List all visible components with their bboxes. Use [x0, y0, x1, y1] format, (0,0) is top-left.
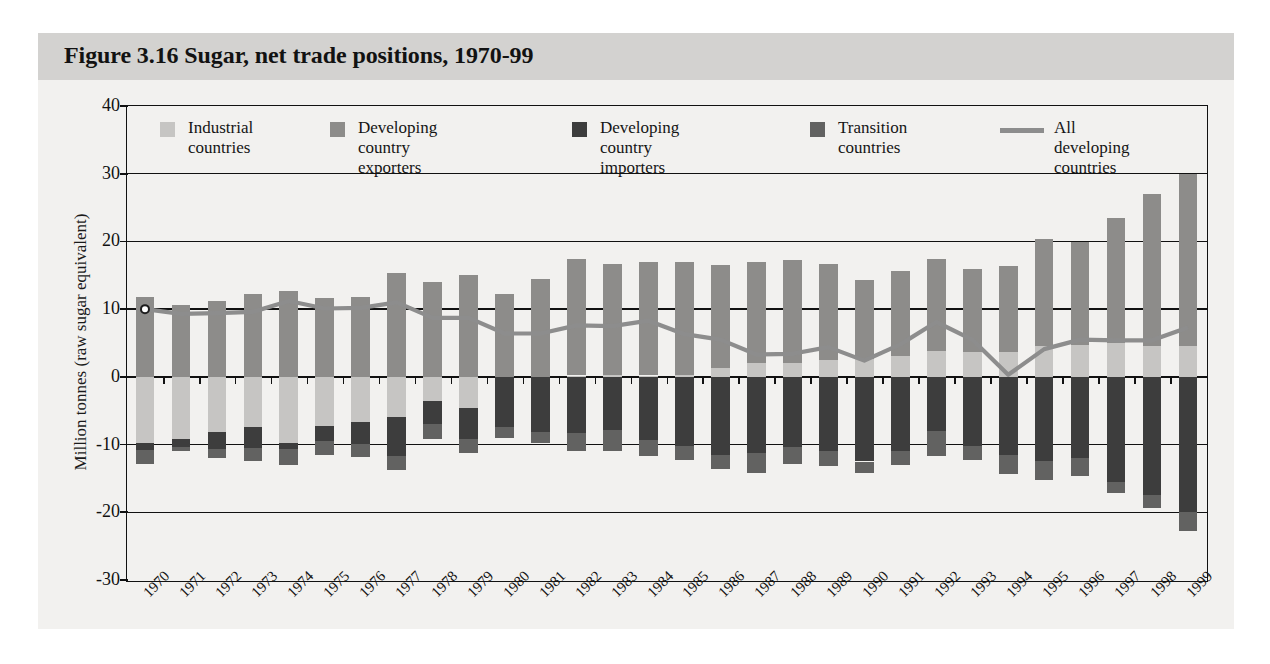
legend-color-swatch — [330, 122, 345, 137]
legend-color-swatch — [810, 122, 825, 137]
legend-label: All developing countries — [1054, 118, 1130, 178]
x-tickmark — [595, 377, 597, 384]
x-tickmark — [990, 377, 992, 384]
x-tickmark — [307, 377, 309, 384]
x-tickmark — [918, 377, 920, 384]
x-tickmark — [163, 377, 165, 384]
x-tickmark — [559, 377, 561, 384]
x-tickmark — [523, 377, 525, 384]
x-tickmark — [846, 377, 848, 384]
x-tickmark — [810, 377, 812, 384]
figure-title-band: Figure 3.16 Sugar, net trade positions, … — [38, 33, 1234, 80]
x-tickmark — [343, 377, 345, 384]
y-tick-label: 10 — [74, 298, 120, 319]
x-tickmark — [487, 377, 489, 384]
legend-line-swatch — [1000, 128, 1044, 133]
x-tickmark — [1062, 377, 1064, 384]
x-tickmark — [199, 377, 201, 384]
legend-label: Developing country exporters — [358, 118, 437, 178]
x-tickmark — [954, 377, 956, 384]
x-tickmark — [379, 377, 381, 384]
x-tickmark — [415, 377, 417, 384]
x-tickmark — [271, 377, 273, 384]
legend-color-swatch — [572, 122, 587, 137]
x-axis-tick-labels: 1970197119721973197419751976197719781979… — [126, 585, 1208, 655]
legend-label: Transition countries — [838, 118, 907, 158]
legend-label: Industrial countries — [188, 118, 253, 158]
x-tickmark — [1098, 377, 1100, 384]
y-tick-label: 20 — [74, 230, 120, 251]
y-tick-label: -10 — [74, 433, 120, 454]
x-tickmark — [1134, 377, 1136, 384]
chart-legend: Industrial countriesDeveloping country e… — [160, 118, 1160, 168]
x-tickmark — [738, 377, 740, 384]
x-tickmark — [667, 377, 669, 384]
y-tick-label: 40 — [74, 95, 120, 116]
x-tickmark — [451, 377, 453, 384]
x-tickmark — [702, 377, 704, 384]
x-tickmark — [631, 377, 633, 384]
x-tickmark — [1170, 377, 1172, 384]
y-tick-label: 0 — [74, 365, 120, 386]
legend-color-swatch — [160, 122, 175, 137]
line-start-marker — [141, 305, 149, 313]
plot-area-wrapper: Million tonnes (raw sugar equivalent) 40… — [38, 80, 1234, 629]
line-all-developing-countries — [145, 301, 1188, 375]
y-tick-label: -30 — [74, 569, 120, 590]
figure-title: Figure 3.16 Sugar, net trade positions, … — [64, 42, 533, 69]
x-tickmark — [774, 377, 776, 384]
figure-card: Figure 3.16 Sugar, net trade positions, … — [38, 33, 1234, 629]
y-tick-label: 30 — [74, 162, 120, 183]
x-tickmark — [235, 377, 237, 384]
x-tickmark — [1026, 377, 1028, 384]
y-axis-tick-labels: 403020100-10-20-30 — [64, 80, 120, 629]
legend-label: Developing country importers — [600, 118, 679, 178]
x-tickmark — [882, 377, 884, 384]
y-tick-label: -20 — [74, 501, 120, 522]
